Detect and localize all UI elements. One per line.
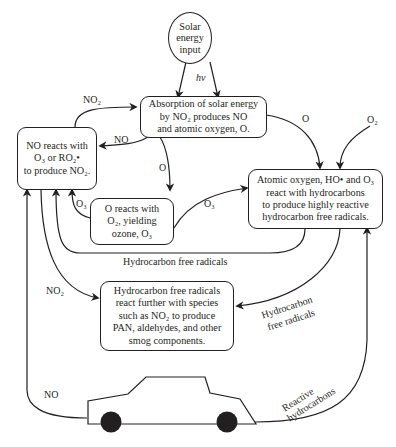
node-text: O₂, yielding bbox=[105, 215, 159, 227]
label-o3-right: O₃ bbox=[204, 198, 215, 209]
node-no-reacts: NO reacts with O₃ or RO₂• to produce NO₂… bbox=[17, 127, 97, 190]
arrow-hc-right bbox=[237, 229, 340, 306]
node-text: Atomic oxygen, HO• and O₃ bbox=[257, 174, 374, 186]
node-text: input bbox=[176, 44, 204, 56]
arrow-o-right bbox=[266, 115, 320, 168]
arrow-o2 bbox=[340, 126, 370, 168]
node-solar-energy-input: Solar energy input bbox=[168, 12, 212, 64]
node-text: to produce highly reactive bbox=[257, 199, 374, 211]
node-text: ozone, O₃ bbox=[105, 228, 159, 240]
node-text: O reacts with bbox=[105, 203, 159, 215]
label-o2: O₂ bbox=[367, 114, 378, 125]
label-no2-top: NO₂ bbox=[83, 94, 101, 105]
label-hc-bottom: Hydrocarbon free radicals bbox=[123, 256, 227, 267]
node-hc-free-radicals: Hydrocarbon free radicals react further … bbox=[100, 281, 234, 351]
node-text: and atomic oxygen, O. bbox=[149, 123, 258, 135]
label-no-car: NO bbox=[44, 389, 58, 400]
arrow-solar-left bbox=[178, 62, 186, 97]
node-absorption: Absorption of solar energy by NO₂ produc… bbox=[140, 96, 267, 138]
node-text: react further with species bbox=[113, 297, 222, 309]
label-o3-left: O₃ bbox=[76, 198, 87, 209]
label-hv: hν bbox=[196, 72, 205, 83]
node-text: Hydrocarbon free radicals bbox=[113, 285, 222, 297]
node-atomic-oxygen: Atomic oxygen, HO• and O₃ react with hyd… bbox=[248, 169, 383, 229]
car-wheel-rear-icon bbox=[217, 412, 238, 433]
arrow-no2-top bbox=[75, 107, 136, 127]
label-o-down: O bbox=[159, 162, 166, 173]
node-text: such as NO₂ to produce bbox=[113, 310, 222, 322]
node-text: PAN, aldehydes, and other bbox=[113, 322, 222, 334]
node-text: Solar bbox=[176, 21, 204, 33]
label-no2-left: NO₂ bbox=[46, 285, 64, 296]
label-o-right: O bbox=[302, 113, 309, 124]
arrow-solar-right bbox=[210, 62, 218, 97]
node-text: NO reacts with bbox=[24, 140, 91, 152]
node-text: smog components. bbox=[113, 335, 222, 347]
label-no: NO bbox=[114, 134, 128, 145]
node-text: hydrocarbon free radicals. bbox=[257, 211, 374, 223]
node-text: react with hydrocarbons bbox=[257, 187, 374, 199]
node-text: energy bbox=[176, 32, 204, 44]
node-text: Absorption of solar energy bbox=[149, 98, 258, 110]
node-text: to produce NO₂. bbox=[24, 165, 91, 177]
node-o-reacts: O reacts with O₂, yielding ozone, O₃ bbox=[90, 198, 174, 245]
arrow-no-car bbox=[27, 190, 87, 418]
car-wheel-front-icon bbox=[101, 412, 122, 433]
node-text: O₃ or RO₂• bbox=[24, 152, 91, 164]
node-text: by NO₂ produces NO bbox=[149, 111, 258, 123]
